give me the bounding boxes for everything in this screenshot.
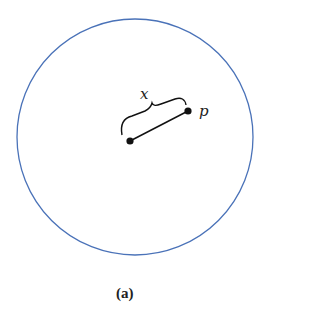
figure-caption: (a) xyxy=(116,285,134,302)
label-p: p xyxy=(199,102,209,120)
center-point xyxy=(126,137,133,144)
boundary-circle xyxy=(17,19,253,255)
segment-x xyxy=(130,111,188,141)
label-x: x xyxy=(140,85,149,103)
diagram-canvas: x p (a) xyxy=(0,0,336,323)
point-p xyxy=(184,107,191,114)
